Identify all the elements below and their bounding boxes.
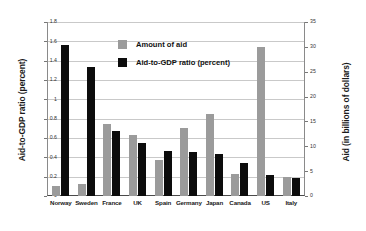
bar-group (227, 22, 253, 196)
bar-amount-of-aid (78, 184, 86, 196)
y-axis-left-tickmark (44, 177, 47, 178)
x-axis-tick-label: UK (125, 199, 151, 206)
bar-aid-to-gdp-ratio (189, 152, 197, 196)
y-axis-right-tick-label: 10 (310, 144, 334, 149)
bar-amount-of-aid (283, 177, 291, 196)
x-axis-tick-label: Norway (48, 199, 74, 206)
x-axis-tick-label: Canada (227, 199, 253, 206)
bar-aid-to-gdp-ratio (240, 163, 248, 196)
x-axis-tick-label: Japan (202, 199, 228, 206)
y-axis-left-tickmark (44, 22, 47, 23)
x-axis-tick-label: US (253, 199, 279, 206)
bar-amount-of-aid (52, 186, 60, 196)
y-axis-right-tick-label: 15 (310, 119, 334, 124)
x-axis-tick-label: France (99, 199, 125, 206)
y-axis-right-tickmark (305, 72, 308, 73)
y-axis-right-tick-label: 0 (310, 193, 334, 198)
bar-amount-of-aid (206, 114, 214, 196)
y-axis-right-tickmark (305, 121, 308, 122)
y-axis-right-title: Aid (in billions of dollars) (341, 47, 351, 177)
y-axis-right-tick-label: 20 (310, 94, 334, 99)
y-axis-left-tickmark (44, 41, 47, 42)
bar-group (48, 22, 74, 196)
y-axis-left-tickmark (44, 80, 47, 81)
legend-swatch-icon (118, 40, 127, 49)
x-axis-tick-label: Germany (176, 199, 202, 206)
bar-aid-to-gdp-ratio (138, 143, 146, 196)
legend-label: Amount of aid (136, 40, 187, 49)
y-axis-left-title: Aid-to-GDP ratio (percent) (17, 45, 27, 175)
y-axis-right-tick-label: 5 (310, 169, 334, 174)
bar-amount-of-aid (180, 128, 188, 196)
y-axis-right-tickmark (305, 146, 308, 147)
bar-group (278, 22, 304, 196)
bar-aid-to-gdp-ratio (292, 178, 300, 196)
bar-amount-of-aid (231, 174, 239, 196)
bar-aid-to-gdp-ratio (164, 151, 172, 196)
bar-group (74, 22, 100, 196)
y-axis-right-tick-label: 25 (310, 69, 334, 74)
bar-aid-to-gdp-ratio (112, 131, 120, 196)
chart-legend: Amount of aidAid-to-GDP ratio (percent) (118, 40, 230, 67)
y-axis-right-tick-label: 35 (310, 19, 334, 24)
bar-amount-of-aid (257, 47, 265, 196)
y-axis-left-tickmark (44, 138, 47, 139)
y-axis-right-tickmark (305, 196, 308, 197)
y-axis-left-tickmark (44, 61, 47, 62)
legend-label: Aid-to-GDP ratio (percent) (136, 58, 230, 67)
y-axis-left-tickmark (44, 119, 47, 120)
bar-group (253, 22, 279, 196)
y-axis-left-tickmark (44, 157, 47, 158)
y-axis-left-tickmark (44, 99, 47, 100)
bar-amount-of-aid (103, 124, 111, 196)
x-axis-category-labels: NorwaySwedenFranceUKSpainGermanyJapanCan… (48, 199, 304, 206)
y-axis-right-tickmark (305, 22, 308, 23)
x-axis-tick-label: Sweden (74, 199, 100, 206)
y-axis-left-tickmark (44, 196, 47, 197)
y-axis-right-tickmark (305, 97, 308, 98)
x-axis-tick-label: Italy (278, 199, 304, 206)
x-axis-tick-label: Spain (150, 199, 176, 206)
bar-aid-to-gdp-ratio (87, 67, 95, 196)
bar-aid-to-gdp-ratio (266, 175, 274, 196)
bar-aid-to-gdp-ratio (61, 45, 69, 196)
legend-item: Aid-to-GDP ratio (percent) (118, 58, 230, 67)
legend-item: Amount of aid (118, 40, 230, 49)
y-axis-right-tickmark (305, 171, 308, 172)
bar-aid-to-gdp-ratio (215, 154, 223, 196)
y-axis-right-tick-label: 30 (310, 44, 334, 49)
bar-amount-of-aid (129, 135, 137, 196)
aid-comparison-chart: Aid-to-GDP ratio (percent) Aid (in billi… (0, 0, 366, 231)
legend-swatch-icon (118, 58, 127, 67)
y-axis-right-tickmark (305, 47, 308, 48)
bar-amount-of-aid (155, 160, 163, 196)
